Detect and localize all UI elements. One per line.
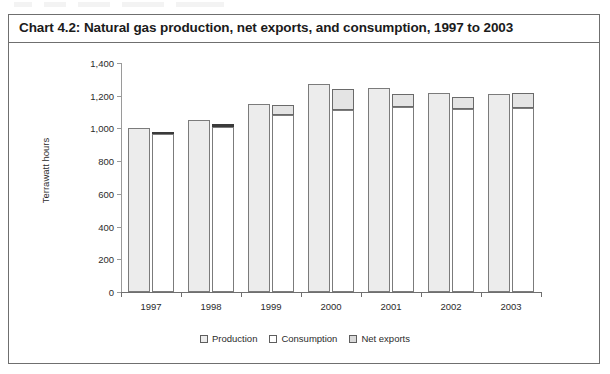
- x-axis-tick-label: 2000: [320, 301, 341, 312]
- x-axis-tick-mark: [181, 292, 182, 297]
- y-axis-tick-mark: [117, 259, 121, 260]
- plot-area: 02004006008001,0001,2001,400: [121, 63, 541, 292]
- y-axis-tick-mark: [117, 96, 121, 97]
- y-axis-tick-mark: [117, 194, 121, 195]
- bar-production: [368, 88, 390, 292]
- bar-net-exports: [152, 132, 174, 134]
- y-axis-tick-mark: [117, 128, 121, 129]
- bar-production: [308, 84, 330, 292]
- scan-artifact: [14, 2, 224, 7]
- legend-item-net-exports: Net exports: [349, 333, 410, 344]
- y-axis-tick-mark: [117, 63, 121, 64]
- bar-production: [128, 128, 150, 292]
- x-axis-tick-mark: [481, 292, 482, 297]
- plot-wrapper: Terrawatt hours 02004006008001,0001,2001…: [9, 15, 601, 365]
- y-axis-tick-mark: [117, 227, 121, 228]
- x-axis-tick-label: 2001: [380, 301, 401, 312]
- legend-swatch-production-icon: [200, 335, 208, 343]
- bar-net-exports: [392, 94, 414, 107]
- x-axis-tick-mark: [421, 292, 422, 297]
- bar-consumption: [392, 107, 414, 292]
- x-axis-tick-mark: [241, 292, 242, 297]
- bar-production: [248, 104, 270, 292]
- bar-consumption: [152, 134, 174, 292]
- bar-net-exports: [452, 97, 474, 109]
- legend-label-consumption: Consumption: [281, 333, 337, 344]
- bar-net-exports: [272, 105, 294, 116]
- chart-frame: Chart 4.2: Natural gas production, net e…: [8, 14, 600, 364]
- bar-production: [428, 93, 450, 292]
- x-axis-tick-label: 2002: [440, 301, 461, 312]
- bar-production: [188, 120, 210, 292]
- legend-item-consumption: Consumption: [269, 333, 337, 344]
- chart-legend: Production Consumption Net exports: [9, 333, 601, 344]
- x-axis-tick-mark: [361, 292, 362, 297]
- x-axis-tick-mark: [121, 292, 122, 297]
- bar-consumption: [512, 108, 534, 292]
- bar-net-exports: [212, 124, 234, 126]
- legend-swatch-net-exports-icon: [349, 335, 357, 343]
- legend-item-production: Production: [200, 333, 257, 344]
- legend-label-net-exports: Net exports: [361, 333, 410, 344]
- bar-consumption: [452, 109, 474, 292]
- legend-swatch-consumption-icon: [269, 335, 277, 343]
- y-axis-title: Terrawatt hours: [40, 101, 51, 241]
- legend-label-production: Production: [212, 333, 257, 344]
- x-axis-tick-mark: [301, 292, 302, 297]
- bar-net-exports: [332, 89, 354, 109]
- bar-consumption: [272, 115, 294, 292]
- x-axis-line: [121, 292, 542, 293]
- bar-net-exports: [512, 93, 534, 108]
- x-axis-tick-label: 1997: [140, 301, 161, 312]
- x-axis-tick-label: 2003: [500, 301, 521, 312]
- bar-production: [488, 94, 510, 292]
- y-axis-tick-mark: [117, 161, 121, 162]
- bar-consumption: [332, 110, 354, 292]
- x-axis-tick-mark: [541, 292, 542, 297]
- x-axis-tick-label: 1999: [260, 301, 281, 312]
- x-axis-tick-label: 1998: [200, 301, 221, 312]
- bar-consumption: [212, 127, 234, 292]
